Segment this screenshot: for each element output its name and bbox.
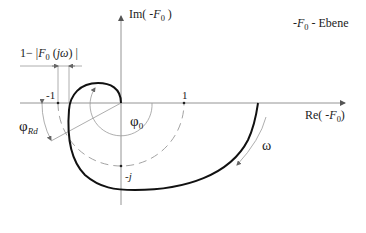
phase-margin-ray [51, 103, 121, 141]
omega-label: ω [262, 139, 271, 153]
plane-label: -F0 - Ebene [293, 17, 349, 32]
label-one: 1 [182, 90, 188, 101]
re-axis-label: Re( -F0) [305, 109, 345, 124]
label-minus-j: -j [125, 171, 132, 182]
nyquist-curve [68, 83, 258, 190]
label-minus-one: -1 [46, 90, 55, 101]
tick-one [183, 102, 186, 105]
phi0-label: φ0 [130, 114, 143, 131]
phird-label: φRd [19, 119, 38, 136]
tick-minus-one [57, 102, 60, 105]
gain-margin-label: 1− |F0 (jω) | [20, 47, 78, 62]
nyquist-diagram: Im( -F0 ) -F0 - Ebene Re( -F0) 1− |F0 (j… [0, 0, 366, 233]
im-axis-label: Im( -F0 ) [129, 8, 172, 23]
tick-minus-j [120, 165, 123, 168]
phirdarc [42, 103, 51, 140]
